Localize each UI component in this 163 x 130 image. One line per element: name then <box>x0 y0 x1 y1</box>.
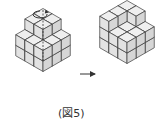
figure-caption: (図5) <box>58 104 85 120</box>
right-cube-solid <box>100 1 155 64</box>
